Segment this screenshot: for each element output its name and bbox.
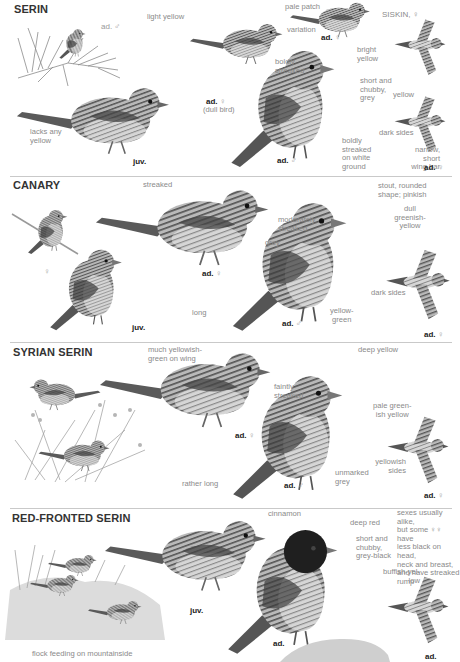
label: pale patch	[285, 3, 320, 12]
red-fronted-flock-bird-3	[88, 598, 143, 628]
age-label: ad. ♂	[284, 481, 304, 490]
label: dark sides	[371, 289, 406, 298]
section-canary: CANARY ♀ juv. streaked ad. ♀ long modera…	[0, 170, 460, 335]
age-label: ad.	[425, 652, 437, 661]
section-title: SYRIAN SERIN	[13, 346, 92, 358]
label: grey	[265, 239, 280, 248]
age-label: ad. ♀	[202, 269, 222, 278]
age-label: ad. ♀	[321, 33, 341, 42]
age-label: ad. ♂	[282, 319, 302, 328]
label: rather long	[182, 480, 218, 489]
label: boldly streaked	[275, 58, 304, 75]
serin-female-head-variation	[312, 0, 372, 35]
syrian-serin-female-flying	[378, 415, 458, 487]
label: yellowish sides	[372, 458, 406, 475]
label: short and chubby, grey-black	[356, 535, 391, 561]
section-title: CANARY	[13, 179, 60, 191]
label: moderately streaked	[278, 216, 316, 233]
label: much yellowish- green on wing	[148, 346, 202, 363]
serin-male-perched	[58, 24, 88, 64]
section-title: SERIN	[14, 3, 48, 15]
section-syrian-serin: SYRIAN SERIN much yellowish- green on wi…	[0, 335, 460, 495]
label: streaked	[143, 181, 172, 190]
age-label: ad. ♂	[101, 22, 120, 31]
age-label: juv.	[190, 606, 203, 615]
label: dull greenish- yellow	[382, 205, 438, 231]
age-label: ad. ♂	[277, 156, 297, 165]
label: variation	[287, 26, 316, 35]
siskin-female-flying	[385, 18, 455, 78]
syrian-serin-on-shrub-1	[24, 378, 104, 413]
age-label: ad.	[273, 639, 285, 648]
label: yellow- green	[330, 307, 354, 324]
section-red-fronted-serin: RED-FRONTED SERIN flock feeding on mount…	[0, 495, 460, 662]
label: long	[192, 309, 206, 318]
age-label: juv.	[132, 323, 145, 332]
syrian-serin-on-shrub-2	[35, 439, 115, 474]
label: boldly streaked on white ground	[342, 137, 371, 171]
label: deep red	[350, 519, 380, 528]
rock-perch	[280, 635, 390, 662]
caption: flock feeding on mountainside	[32, 650, 132, 659]
label: deep yellow	[358, 346, 398, 355]
label: lacks any yellow	[30, 128, 62, 145]
serin-juvenile	[15, 85, 175, 160]
label: faintly streaked	[274, 383, 303, 400]
label: cinnamon	[268, 510, 301, 519]
label: stout, rounded shape; pinkish	[378, 182, 427, 199]
label: light yellow	[147, 13, 184, 22]
age-label: juv.	[133, 157, 146, 166]
label: dark sides	[379, 129, 414, 138]
label: unmarked grey	[335, 469, 369, 486]
canary-female-flying	[378, 248, 458, 323]
red-fronted-flock-bird-2	[30, 571, 80, 601]
section-serin: SERIN ad. ♂ light yellow ad. ♀ (dull bir…	[0, 0, 460, 170]
label: bright yellow	[357, 46, 378, 63]
red-fronted-serin-flying	[378, 575, 458, 647]
